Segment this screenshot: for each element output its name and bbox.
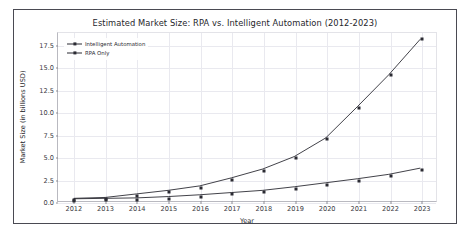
y-tick-label: 12.5: [39, 87, 54, 95]
gridline-horizontal: [58, 203, 436, 204]
y-axis-label: Market Size (in billions USD): [19, 71, 27, 164]
data-point: [357, 179, 360, 182]
data-point: [326, 183, 329, 186]
legend-marker-icon: [67, 49, 82, 57]
data-point: [262, 191, 265, 194]
y-tick-label: 7.5: [44, 132, 55, 140]
x-tick-label: 2023: [414, 205, 431, 213]
x-tick-label: 2013: [97, 205, 114, 213]
x-tick-label: 2014: [129, 205, 146, 213]
data-point: [199, 186, 202, 189]
y-tick-label: 2.5: [44, 177, 55, 185]
data-point: [389, 74, 392, 77]
x-tick-mark: [200, 201, 201, 204]
data-point: [231, 193, 234, 196]
data-point: [421, 38, 424, 41]
x-tick-mark: [263, 201, 264, 204]
chart-legend: Intelligent Automation RPA Only: [64, 38, 148, 60]
data-point: [72, 199, 75, 202]
data-point: [199, 195, 202, 198]
x-tick-label: 2012: [65, 205, 82, 213]
data-point: [294, 157, 297, 160]
legend-item-intelligent-automation: Intelligent Automation: [67, 40, 145, 48]
legend-marker-icon: [67, 40, 82, 48]
y-tick-mark: [56, 203, 59, 204]
x-tick-mark: [390, 201, 391, 204]
data-point: [136, 198, 139, 201]
data-point: [167, 191, 170, 194]
x-tick-mark: [422, 201, 423, 204]
data-point: [262, 169, 265, 172]
x-tick-mark: [168, 201, 169, 204]
data-point: [294, 187, 297, 190]
data-point: [136, 194, 139, 197]
data-point: [167, 197, 170, 200]
x-tick-mark: [295, 201, 296, 204]
y-tick-label: 5.0: [44, 154, 55, 162]
legend-label: Intelligent Automation: [85, 41, 145, 47]
x-tick-mark: [232, 201, 233, 204]
x-axis-label: Year: [57, 217, 437, 225]
data-point: [389, 175, 392, 178]
data-point: [326, 138, 329, 141]
x-tick-mark: [327, 201, 328, 204]
y-tick-label: 0.0: [44, 199, 55, 207]
x-tick-label: 2016: [192, 205, 209, 213]
data-point: [357, 106, 360, 109]
x-tick-label: 2020: [319, 205, 336, 213]
legend-label: RPA Only: [85, 50, 109, 56]
series-line-1: [74, 39, 421, 198]
data-point: [421, 168, 424, 171]
y-tick-label: 10.0: [39, 109, 54, 117]
x-tick-label: 2017: [224, 205, 241, 213]
x-tick-label: 2015: [160, 205, 177, 213]
x-tick-label: 2021: [350, 205, 367, 213]
legend-item-rpa-only: RPA Only: [67, 49, 145, 57]
y-tick-label: 17.5: [39, 42, 54, 50]
x-tick-mark: [358, 201, 359, 204]
series-line-2: [74, 168, 421, 199]
x-tick-label: 2018: [255, 205, 272, 213]
x-tick-label: 2022: [382, 205, 399, 213]
x-tick-mark: [137, 201, 138, 204]
data-point: [231, 178, 234, 181]
x-tick-label: 2019: [287, 205, 304, 213]
chart-figure: Estimated Market Size: RPA vs. Intellige…: [13, 9, 457, 224]
y-tick-label: 15.0: [39, 64, 54, 72]
chart-title: Estimated Market Size: RPA vs. Intellige…: [14, 18, 456, 28]
data-point: [104, 199, 107, 202]
